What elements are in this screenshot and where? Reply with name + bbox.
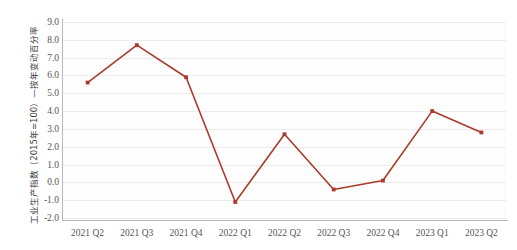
y-axis-tick-label: 3.0 xyxy=(29,124,59,134)
y-axis-tick-label: 6.0 xyxy=(29,70,59,80)
x-axis-tick-label: 2023 Q2 xyxy=(451,228,511,238)
y-axis-tick-label: 5.0 xyxy=(29,88,59,98)
plot-area xyxy=(63,22,506,218)
data-point-marker xyxy=(283,132,287,136)
x-axis-line xyxy=(62,220,508,221)
data-point-marker xyxy=(233,200,237,204)
data-point-marker xyxy=(430,109,434,113)
chart-container: 工业生产指数（2015年=100）—按年变动百分率 9.08.07.06.05.… xyxy=(0,0,517,250)
y-axis-tick-label: 2.0 xyxy=(29,142,59,152)
data-point-marker xyxy=(184,75,188,79)
y-axis-tick-label: 1.0 xyxy=(29,160,59,170)
line-series xyxy=(63,22,506,218)
x-axis-tick-labels: 2021 Q22021 Q32021 Q42022 Q12022 Q22022 … xyxy=(63,228,506,244)
y-axis-tick-label: 9.0 xyxy=(29,17,59,27)
data-point-marker xyxy=(86,81,90,85)
data-point-marker xyxy=(135,43,139,47)
gridline xyxy=(63,218,506,219)
data-point-marker xyxy=(332,188,336,192)
series-line xyxy=(88,45,482,202)
y-axis-tick-labels: 9.08.07.06.05.04.03.02.01.00.0-1.0-2.0 xyxy=(26,22,59,218)
data-point-marker xyxy=(479,131,483,135)
y-axis-tick-label: 7.0 xyxy=(29,53,59,63)
data-point-marker xyxy=(381,179,385,183)
y-axis-tick-label: -1.0 xyxy=(29,195,59,205)
y-axis-tick-label: 0.0 xyxy=(29,177,59,187)
y-axis-tick-label: 8.0 xyxy=(29,35,59,45)
y-axis-tick-label: -2.0 xyxy=(29,213,59,223)
y-axis-tick-label: 4.0 xyxy=(29,106,59,116)
